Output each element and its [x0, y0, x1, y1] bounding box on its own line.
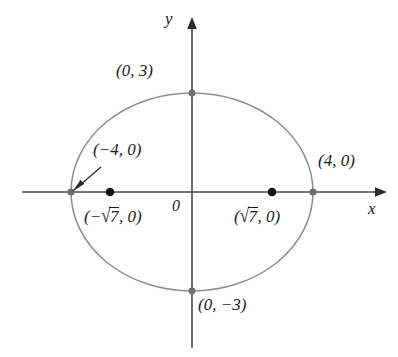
label-left-vertex: (−4, 0)	[93, 141, 141, 158]
vertex-left-marker	[67, 188, 74, 195]
left-focus-radical: (−√7, 0)	[84, 207, 142, 225]
y-axis-arrowhead	[187, 17, 197, 29]
vertex-right-marker	[309, 188, 316, 195]
right-focus-radicand: 7	[248, 207, 258, 225]
left-focus-paren-open: (−	[84, 207, 101, 226]
right-focus-paren-close: , 0)	[258, 207, 281, 226]
focus-right-marker	[268, 188, 277, 197]
x-axis-label: x	[368, 200, 376, 217]
right-focus-radical: (√7, 0)	[234, 207, 280, 225]
label-right-focus: (√7, 0)	[234, 207, 280, 225]
label-bottom-vertex: (0, −3)	[198, 296, 246, 313]
label-right-vertex: (4, 0)	[318, 152, 355, 169]
y-axis-label: y	[165, 10, 173, 27]
x-axis-arrowhead	[375, 187, 387, 197]
origin-label: 0	[172, 198, 180, 214]
left-focus-radicand: 7	[109, 207, 119, 225]
vertex-bottom-marker	[189, 288, 196, 295]
label-top-vertex: (0, 3)	[116, 62, 153, 79]
focus-left-marker	[106, 188, 115, 197]
left-focus-paren-close: , 0)	[119, 207, 142, 226]
left-vertex-leader-arrow	[73, 167, 102, 192]
ellipse-figure: (0, 3) (0, −3) (4, 0) (−4, 0) (√7, 0) (−…	[0, 0, 398, 357]
vertex-top-marker	[189, 90, 196, 97]
label-left-focus: (−√7, 0)	[84, 207, 142, 225]
